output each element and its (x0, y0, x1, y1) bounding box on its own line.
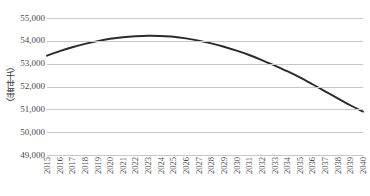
y-axis-tick-label: 54,000 (0, 36, 45, 45)
x-axis-tick-label: 2029 (219, 157, 229, 174)
gridline (47, 41, 363, 42)
x-axis-tick-label: 2036 (307, 157, 317, 174)
x-axis-tick-label: 2023 (143, 157, 153, 174)
x-axis-tick-label: 2035 (295, 157, 305, 174)
x-axis-tick-label: 2031 (244, 157, 254, 174)
x-axis-tick-label: 2019 (93, 157, 103, 174)
gridline (47, 132, 363, 133)
y-axis-tick-label: 51,000 (0, 105, 45, 114)
x-axis-tick-label: 2025 (168, 157, 178, 174)
x-axis-tick-label: 2017 (67, 157, 77, 174)
x-axis-tick-label: 2026 (181, 157, 191, 174)
x-axis-tick-label: 2020 (105, 157, 115, 174)
gridline (47, 18, 363, 19)
gridline (47, 109, 363, 110)
x-axis-tick-labels: 2015201620172018201920202021202220232024… (47, 157, 363, 196)
x-axis-tick-label: 2022 (130, 157, 140, 174)
x-axis-tick-label: 2038 (333, 157, 343, 174)
y-axis-tick-label: 55,000 (0, 14, 45, 23)
x-axis-tick-label: 2018 (80, 157, 90, 174)
y-axis-tick-label: 52,000 (0, 82, 45, 91)
x-axis-tick-label: 2037 (320, 157, 330, 174)
x-axis-tick-label: 2034 (282, 157, 292, 174)
x-axis-tick-label: 2028 (206, 157, 216, 174)
x-axis-tick-label: 2040 (358, 157, 368, 174)
x-axis-tick-label: 2033 (270, 157, 280, 174)
y-axis-tick-label: 50,000 (0, 128, 45, 137)
y-axis-tick-labels: 55,00054,00053,00052,00051,00050,00049,0… (0, 0, 45, 196)
gridline (47, 87, 363, 88)
x-axis-tick-label: 2016 (55, 157, 65, 174)
gridline (47, 155, 363, 156)
plot-area (47, 18, 363, 155)
line-chart: （千世帯） 55,00054,00053,00052,00051,00050,0… (0, 0, 370, 196)
x-axis-tick-label: 2027 (194, 157, 204, 174)
y-axis-tick-label: 49,000 (0, 151, 45, 160)
series-path (47, 36, 363, 112)
x-axis-tick-label: 2030 (232, 157, 242, 174)
x-axis-tick-label: 2024 (156, 157, 166, 174)
x-axis-tick-label: 2015 (42, 157, 52, 174)
x-axis-tick-label: 2021 (118, 157, 128, 174)
y-axis-tick-label: 53,000 (0, 59, 45, 68)
gridline (47, 64, 363, 65)
x-axis-tick-label: 2039 (345, 157, 355, 174)
x-axis-tick-label: 2032 (257, 157, 267, 174)
